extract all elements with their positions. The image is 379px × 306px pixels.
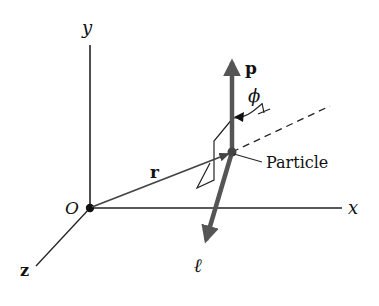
- z-axis-label: z: [20, 261, 29, 280]
- position-vector-label: r: [150, 162, 160, 182]
- plane-outline: [197, 118, 233, 188]
- z-axis: [36, 208, 90, 266]
- r-extension-dashed: [232, 106, 330, 152]
- particle-leader-line: [234, 154, 262, 162]
- origin-label: O: [65, 198, 79, 218]
- angular-momentum-vector-label: ℓ: [194, 254, 202, 276]
- origin-point: [86, 204, 94, 212]
- x-axis-label: x: [348, 197, 358, 218]
- y-axis-label: y: [81, 17, 93, 38]
- particle-point: [228, 148, 237, 157]
- angle-phi-label: ϕ: [248, 85, 260, 106]
- angle-arrowhead: [234, 112, 244, 122]
- position-vector-r: [92, 154, 228, 207]
- particle-label: Particle: [266, 153, 328, 172]
- angular-momentum-vector-l: [206, 152, 232, 240]
- angular-momentum-diagram: y x z O r p ℓ ϕ Particle: [0, 0, 379, 306]
- momentum-vector-label: p: [245, 58, 257, 78]
